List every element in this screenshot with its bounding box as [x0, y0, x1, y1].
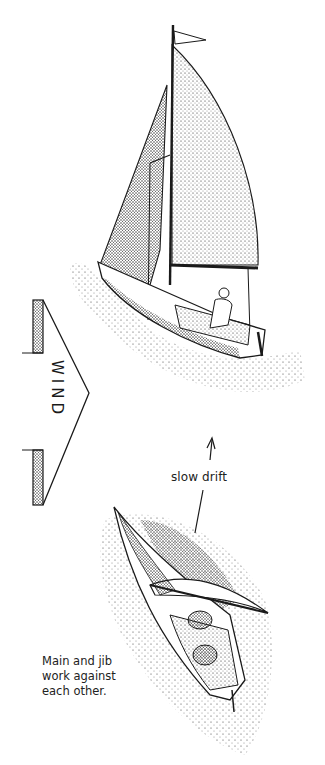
- drift-leader-line: [195, 490, 203, 533]
- lower-boat: [100, 507, 272, 755]
- caption-line-2: work against: [42, 669, 152, 684]
- upper-boat-mainsail: [172, 45, 258, 265]
- upper-boat: [70, 25, 305, 392]
- upper-boat-jib: [100, 85, 167, 285]
- drift-arrow: [195, 438, 215, 533]
- wind-arrow-lower-tail: [33, 450, 43, 505]
- caption-line-1: Main and jib: [42, 654, 152, 669]
- svg-text:WIND: WIND: [48, 360, 66, 418]
- upper-boat-crew-body: [210, 299, 232, 328]
- wind-arrow-upper-tail: [33, 300, 43, 353]
- caption: Main and jib work against each other.: [42, 654, 152, 699]
- wind-label: WIND: [44, 358, 74, 428]
- caption-line-3: each other.: [42, 684, 152, 699]
- lower-boat-crew-1: [188, 611, 212, 629]
- drift-label: slow drift: [171, 470, 227, 484]
- upper-boat-crew-head: [219, 288, 229, 298]
- upper-boat-pennant: [174, 31, 206, 44]
- lower-boat-crew-2: [193, 645, 217, 665]
